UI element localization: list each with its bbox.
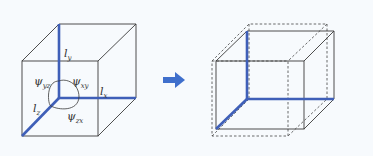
label-ly: ly [64, 47, 73, 62]
label-lx: lx [100, 85, 108, 100]
cube-deformation-diagram: ly lx lz ψyz ψxy ψzx [0, 0, 373, 156]
label-lz: lz [33, 102, 41, 117]
deformed-box-axes [216, 31, 334, 129]
transform-arrow-icon [163, 72, 185, 88]
deformed-box [216, 31, 334, 129]
label-psi-yz: ψyz [34, 75, 51, 90]
diagram-canvas: ly lx lz ψyz ψxy ψzx [0, 0, 373, 156]
deformed-top-face [216, 31, 334, 61]
label-psi-xy: ψxy [72, 75, 90, 90]
label-psi-zx: ψzx [67, 110, 83, 125]
axis-z-edge [22, 98, 59, 136]
deformed-axis-z [216, 99, 247, 129]
dashed-right-face [288, 24, 327, 136]
left-cube-right-face [98, 24, 136, 136]
left-cube-top-face [22, 24, 136, 61]
dashed-hidden-diagonal [212, 99, 249, 136]
original-cube-outline [212, 24, 327, 136]
